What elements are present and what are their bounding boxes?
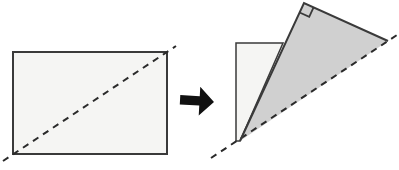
right-arrow-icon (179, 86, 214, 117)
fold-diagram-canvas (0, 0, 399, 170)
folded-figure (211, 3, 397, 158)
fold-diagram (0, 0, 399, 170)
unfolded-rectangle-figure (3, 46, 176, 161)
